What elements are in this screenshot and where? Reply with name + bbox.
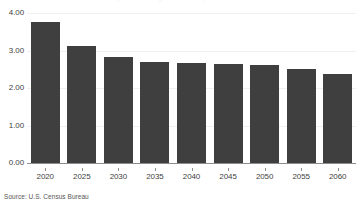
bar[interactable] (214, 64, 243, 163)
bar[interactable] (177, 63, 206, 163)
y-axis-tick-label: 0.00 (0, 159, 24, 167)
bar[interactable] (31, 22, 60, 163)
x-axis-tick (118, 168, 119, 171)
x-axis-tick-label: 2045 (210, 172, 247, 181)
x-axis: 202020252030203520402045205020552060 (27, 168, 356, 182)
bar[interactable] (104, 57, 133, 163)
x-axis-tick-label: 2025 (64, 172, 101, 181)
bar-chart-figure: Projected Average Annual Population Grow… (0, 0, 360, 206)
x-axis-tick-label: 2055 (283, 172, 320, 181)
bar[interactable] (140, 62, 169, 163)
x-axis-tick-label: 2040 (173, 172, 210, 181)
x-axis-tick (192, 168, 193, 171)
x-axis-tick-label: 2020 (27, 172, 64, 181)
plot-area (27, 13, 356, 163)
x-axis-tick-label: 2030 (100, 172, 137, 181)
x-axis-tick (82, 168, 83, 171)
bar[interactable] (67, 46, 96, 163)
source-note: Source: U.S. Census Bureau (4, 193, 89, 201)
y-axis-tick-label: 4.00 (0, 9, 24, 17)
x-axis-tick (338, 168, 339, 171)
bar[interactable] (323, 74, 352, 163)
x-axis-tick-label: 2050 (246, 172, 283, 181)
bar-series (27, 13, 356, 163)
x-axis-tick-label: 2035 (137, 172, 174, 181)
bar[interactable] (250, 65, 279, 163)
x-axis-line (27, 163, 356, 164)
y-axis: 0.001.002.003.004.00 (0, 0, 24, 206)
x-axis-tick (228, 168, 229, 171)
x-axis-tick-label: 2060 (319, 172, 356, 181)
x-axis-tick (155, 168, 156, 171)
x-axis-tick (265, 168, 266, 171)
y-axis-tick-label: 1.00 (0, 122, 24, 130)
x-axis-tick (301, 168, 302, 171)
y-axis-tick-label: 3.00 (0, 47, 24, 55)
y-axis-tick-label: 2.00 (0, 84, 24, 92)
bar[interactable] (287, 69, 316, 163)
x-axis-tick (45, 168, 46, 171)
chart-title: Projected Average Annual Population Grow… (0, 0, 360, 2)
